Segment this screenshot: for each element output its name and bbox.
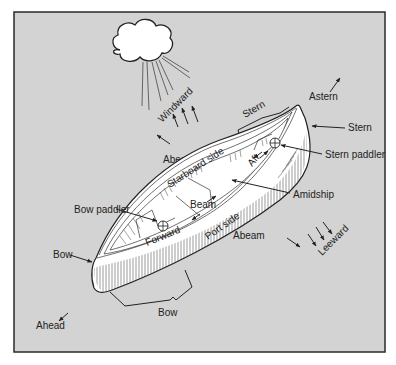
label-amidship: Amidship [293, 189, 335, 200]
label-bow-bracket: Bow [158, 307, 178, 318]
label-bow-tip: Bow [53, 249, 73, 260]
label-ahead: Ahead [36, 320, 65, 331]
label-bow-paddler: Bow paddler [74, 204, 130, 215]
label-astern: Astern [309, 91, 338, 102]
stern-paddler-marker [270, 138, 280, 148]
canoe-terminology-diagram: Windward Abeam Astern Stern Bow [0, 0, 396, 365]
label-beam: Beam [190, 199, 216, 210]
label-stern-paddler: Stern paddler [325, 149, 386, 160]
label-stern-tip: Stern [348, 122, 372, 133]
label-abeam-bottom: Abeam [233, 230, 265, 241]
